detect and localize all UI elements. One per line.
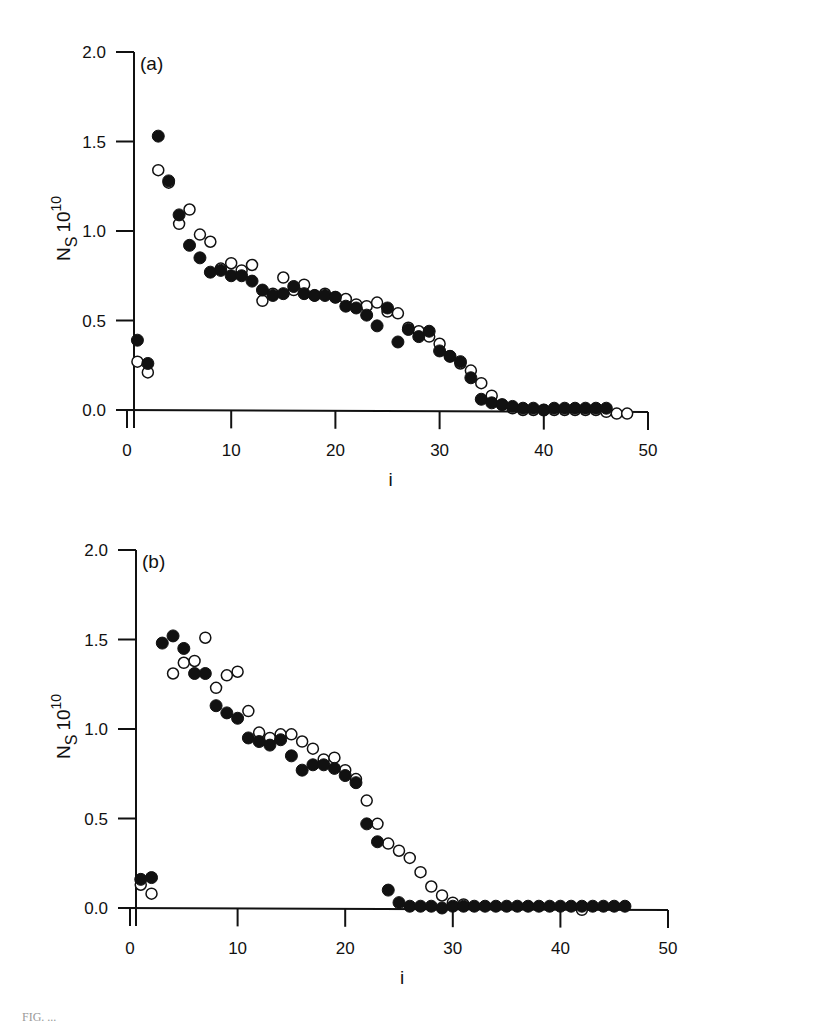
data-point-open (232, 666, 243, 677)
data-point-filled (544, 900, 556, 912)
data-point-filled (318, 759, 330, 771)
data-point-open (189, 655, 200, 666)
data-point-open (437, 890, 448, 901)
figure: 0.00.51.01.52.001020304050i(a)NS10100.00… (0, 0, 834, 1022)
data-point-filled (533, 900, 545, 912)
data-point-filled (199, 668, 211, 680)
data-point-open (257, 295, 268, 306)
data-point-filled (382, 302, 394, 314)
data-point-filled (371, 320, 383, 332)
data-point-open (307, 743, 318, 754)
data-point-filled (135, 873, 147, 885)
x-tick-label: 20 (326, 441, 345, 460)
figure-caption: FIG. ... (22, 1010, 56, 1022)
data-point-open (205, 236, 216, 247)
data-point-open (132, 356, 143, 367)
data-point-filled (608, 900, 620, 912)
data-point-open (168, 668, 179, 679)
data-point-open (211, 682, 222, 693)
data-point-open (226, 258, 237, 269)
y-tick-label: 0.5 (84, 810, 108, 829)
data-point-filled (178, 642, 190, 654)
data-point-filled (597, 900, 609, 912)
x-axis-label: i (388, 469, 392, 490)
x-tick-label: 0 (122, 441, 131, 460)
data-point-filled (296, 764, 308, 776)
data-point-open (476, 378, 487, 389)
data-point-filled (131, 334, 143, 346)
data-point-filled (163, 175, 175, 187)
data-point-filled (404, 900, 416, 912)
data-point-open (247, 260, 258, 271)
data-point-filled (264, 739, 276, 751)
data-point-filled (554, 900, 566, 912)
data-point-filled (329, 291, 341, 303)
data-point-filled (350, 302, 362, 314)
data-point-filled (246, 275, 258, 287)
x-tick-label: 10 (222, 441, 241, 460)
data-point-filled (194, 252, 206, 264)
data-point-filled (382, 884, 394, 896)
data-point-filled (350, 777, 362, 789)
data-point-filled (490, 900, 502, 912)
x-tick-label: 10 (228, 939, 247, 958)
panel-label: (b) (142, 551, 165, 572)
y-axis-label: NS1010 (48, 196, 80, 261)
y-tick-label: 1.5 (82, 133, 106, 152)
data-point-filled (468, 900, 480, 912)
data-point-filled (458, 900, 470, 912)
data-point-filled (307, 759, 319, 771)
data-point-filled (522, 900, 534, 912)
data-point-filled (425, 900, 437, 912)
panel-label: (a) (140, 53, 163, 74)
x-tick-label: 50 (659, 939, 678, 958)
data-point-filled (565, 900, 577, 912)
data-point-open (178, 657, 189, 668)
series-filled (135, 630, 631, 914)
x-tick-label: 0 (125, 939, 134, 958)
data-point-filled (339, 770, 351, 782)
data-point-open (153, 165, 164, 176)
data-point-filled (619, 900, 631, 912)
data-point-filled (465, 372, 477, 384)
data-point-filled (587, 900, 599, 912)
x-tick-label: 20 (336, 939, 355, 958)
data-point-filled (189, 668, 201, 680)
data-point-filled (501, 900, 513, 912)
series-open (132, 165, 633, 419)
data-point-filled (142, 357, 154, 369)
data-point-filled (576, 900, 588, 912)
data-point-filled (167, 630, 179, 642)
data-point-open (297, 736, 308, 747)
data-point-filled (361, 818, 373, 830)
y-tick-label: 2.0 (82, 43, 106, 62)
data-point-filled (371, 836, 383, 848)
x-axis-label: i (400, 967, 404, 988)
data-point-open (286, 729, 297, 740)
data-point-open (383, 838, 394, 849)
y-tick-label: 0.0 (84, 899, 108, 918)
data-point-filled (232, 712, 244, 724)
data-point-filled (184, 239, 196, 251)
data-point-filled (361, 309, 373, 321)
y-tick-label: 1.0 (82, 222, 106, 241)
data-point-filled (479, 900, 491, 912)
y-tick-label: 0.5 (82, 312, 106, 331)
data-point-filled (393, 897, 405, 909)
data-point-filled (210, 700, 222, 712)
data-point-filled (511, 900, 523, 912)
data-point-filled (253, 736, 265, 748)
data-point-open (200, 632, 211, 643)
data-point-filled (423, 325, 435, 337)
data-point-filled (415, 900, 427, 912)
data-point-open (372, 297, 383, 308)
y-axis-label: NS1010 (48, 694, 80, 759)
data-point-open (392, 308, 403, 319)
data-point-open (243, 706, 254, 717)
data-point-filled (402, 323, 414, 335)
chart-panel-b: 0.00.51.01.52.001020304050i(b)NS1010 (48, 541, 677, 988)
data-point-filled (454, 356, 466, 368)
data-point-open (278, 272, 289, 283)
data-point-open (184, 204, 195, 215)
data-point-open (622, 408, 633, 419)
